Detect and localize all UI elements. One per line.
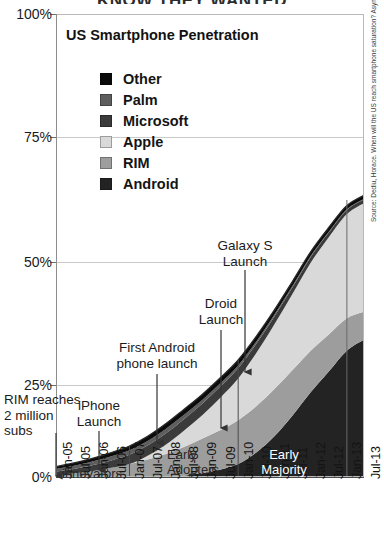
x-axis-label-jan-13: Jan-13 xyxy=(350,442,364,479)
legend-item-other: Other xyxy=(100,68,188,89)
legend-item-palm: Palm xyxy=(100,89,188,110)
y-axis-label-75: 75% xyxy=(0,129,52,145)
y-axis-label-0: 0% xyxy=(0,469,52,485)
x-axis-labels: Jan-05Jul-05Jan-06Jul-06Jan-07Jul-07Jan-… xyxy=(56,479,364,559)
legend-swatch-microsoft xyxy=(100,115,112,127)
y-axis-label-100: 100% xyxy=(0,6,52,22)
legend-label-rim: RIM xyxy=(123,155,150,171)
x-axis-label-jan-07: Jan-07 xyxy=(133,442,147,479)
x-axis-label-jul-07: Jul-07 xyxy=(151,446,165,479)
legend-item-microsoft: Microsoft xyxy=(100,110,188,131)
legend-label-palm: Palm xyxy=(123,92,158,108)
source-credit: Source: Dediu, Horace. When will the US … xyxy=(370,0,377,222)
legend-item-apple: Apple xyxy=(100,131,188,152)
legend-label-other: Other xyxy=(123,71,162,87)
legend-label-android: Android xyxy=(123,176,179,192)
annotation-droid-launch: Droid Launch xyxy=(182,296,260,327)
y-axis-label-50: 50% xyxy=(0,254,52,270)
legend: Other Palm Microsoft Apple RIM Android xyxy=(100,68,188,194)
phase-label-early-majority: Early Majority xyxy=(248,447,320,477)
page-headline: KNOW THEY WANTED xyxy=(0,0,384,4)
legend-label-apple: Apple xyxy=(123,134,163,150)
legend-swatch-palm xyxy=(100,94,112,106)
phase-label-innovators: innovators xyxy=(62,466,122,481)
annotation-first-android: First Android phone launch xyxy=(104,340,210,371)
legend-item-android: Android xyxy=(100,173,188,194)
annotation-galaxy-launch: Galaxy S Launch xyxy=(196,238,294,269)
legend-item-rim: RIM xyxy=(100,152,188,173)
x-axis-label-jul-12: Jul-12 xyxy=(332,446,346,479)
y-axis-label-25: 25% xyxy=(0,377,52,393)
legend-swatch-apple xyxy=(100,136,112,148)
legend-label-microsoft: Microsoft xyxy=(123,113,188,129)
x-axis-label-jul-13: Jul-13 xyxy=(369,446,383,479)
chart-title: US Smartphone Penetration xyxy=(66,27,259,43)
annotation-iphone-launch: iPhone Launch xyxy=(60,398,138,429)
x-axis-label-jul-09: Jul-09 xyxy=(224,446,238,479)
legend-swatch-rim xyxy=(100,157,112,169)
legend-swatch-android xyxy=(100,178,112,190)
legend-swatch-other xyxy=(100,73,112,85)
phase-label-early-adopters: Early Adopters xyxy=(167,447,219,477)
